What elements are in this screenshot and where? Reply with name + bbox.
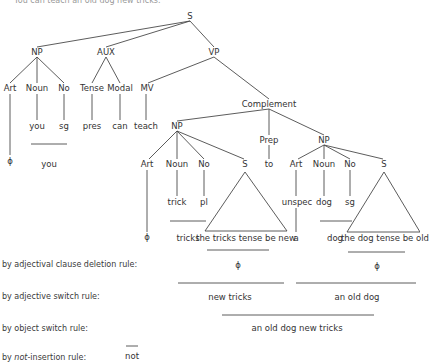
rule-adjective-switch: by adjective switch rule: [2, 292, 100, 302]
node-Noun-tricks: Noun [166, 159, 188, 169]
clause-dog-old: the dog tense be old [341, 233, 429, 243]
leaf-you: you [29, 121, 45, 131]
node-No-dog: No [344, 159, 356, 169]
node-Prep: Prep [260, 135, 279, 145]
leaf-phi-subject: ϕ [7, 156, 13, 166]
node-NP-subject: NP [31, 47, 42, 57]
result-new-tricks: new tricks [208, 292, 251, 302]
node-NP-direct: NP [318, 135, 329, 145]
result-not: not [125, 351, 139, 361]
result-an-old-dog: an old dog [335, 292, 380, 302]
result-an-old-dog-new-tricks: an old dog new tricks [251, 323, 342, 333]
leaf-pl: pl [200, 197, 208, 207]
node-NP-indirect: NP [171, 121, 182, 131]
leaf-pres: pres [83, 121, 101, 131]
node-VP: VP [209, 47, 220, 57]
result-phi-tricks-clause: ϕ [235, 260, 241, 270]
node-Noun-dog: Noun [313, 159, 335, 169]
node-Noun-subject: Noun [26, 83, 48, 93]
node-Modal: Modal [107, 83, 133, 93]
node-S-clause-tricks: S [242, 159, 247, 169]
leaf-trick: trick [168, 197, 187, 207]
rule-adjectival-clause-deletion: by adjectival clause deletion rule: [2, 260, 137, 270]
node-MV: MV [140, 83, 153, 93]
surface-a: a [293, 233, 298, 243]
leaf-sg-dog: sg [345, 197, 355, 207]
leaf-teach: teach [134, 121, 158, 131]
node-No-tricks: No [198, 159, 210, 169]
node-Tense: Tense [80, 83, 104, 93]
rule-label-italic: not [14, 353, 27, 362]
node-Complement: Complement [242, 99, 297, 109]
leaf-to: to [265, 159, 274, 169]
result-phi-dog-clause: ϕ [374, 261, 380, 271]
node-Art-subject: Art [4, 83, 17, 93]
rule-label: by object switch rule: [2, 324, 88, 333]
clause-tricks-new: the tricks tense be new [196, 233, 296, 243]
rule-label-post: -insertion rule: [27, 353, 86, 362]
node-Art-tricks: Art [141, 159, 154, 169]
node-No-subject: No [58, 83, 70, 93]
leaf-dog: dog [316, 197, 332, 207]
leaf-phi-tricks: ϕ [144, 232, 150, 242]
leaf-unspec: unspec [282, 197, 313, 207]
leaf-can: can [112, 121, 127, 131]
node-AUX: AUX [97, 47, 115, 57]
rule-label: by adjectival clause deletion rule: [2, 260, 137, 269]
node-S-clause-dog: S [381, 159, 386, 169]
rule-not-insertion: by not-insertion rule: [2, 353, 86, 363]
node-Art-dog: Art [290, 159, 303, 169]
leaf-sg-subject: sg [59, 121, 69, 131]
node-S: S [187, 11, 192, 21]
rule-label: by adjective switch rule: [2, 292, 100, 301]
rule-label-pre: by [2, 353, 14, 362]
rule-object-switch: by object switch rule: [2, 324, 88, 334]
surface-you: you [41, 159, 57, 169]
